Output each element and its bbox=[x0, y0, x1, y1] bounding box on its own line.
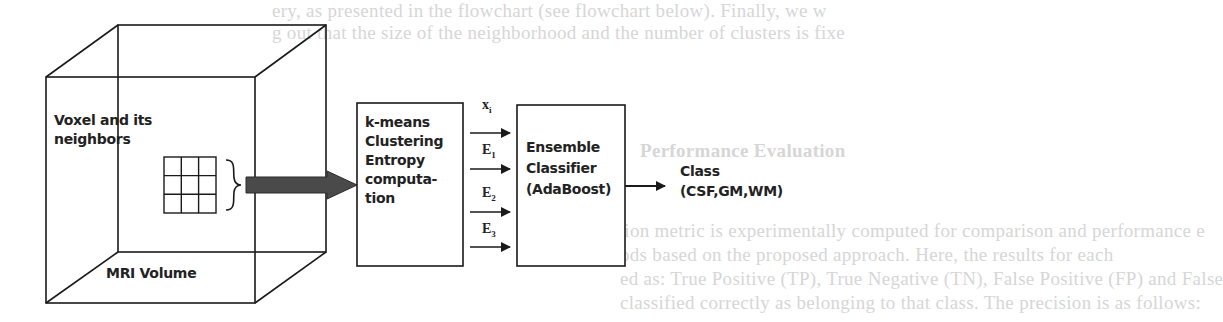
kmeans-line-1: Clustering bbox=[365, 132, 443, 151]
big-arrow-icon bbox=[246, 171, 357, 199]
brace-icon bbox=[226, 160, 241, 210]
classifier-line-2: (AdaBoost) bbox=[526, 179, 611, 200]
kmeans-line-2: Entropy bbox=[365, 151, 443, 170]
voxel-label: Voxel and its neighbors bbox=[54, 111, 154, 149]
feature-label-e3: E3 bbox=[482, 221, 496, 239]
mri-volume-label: MRI Volume bbox=[106, 264, 196, 283]
feature-label-e2: E2 bbox=[482, 185, 496, 203]
feature-label-e1: E1 bbox=[482, 142, 496, 160]
output-line-0: Class bbox=[680, 161, 783, 181]
feature-label-xi: xi bbox=[482, 97, 492, 115]
classifier-box-text: Ensemble Classifier (AdaBoost) bbox=[526, 137, 611, 200]
output-text: Class (CSF,GM,WM) bbox=[680, 161, 783, 201]
kmeans-line-0: k-means bbox=[365, 113, 443, 132]
kmeans-box-text: k-means Clustering Entropy computa- tion bbox=[365, 113, 443, 208]
kmeans-line-4: tion bbox=[365, 189, 443, 208]
voxel-grid-icon bbox=[164, 157, 216, 213]
mri-volume-cube bbox=[46, 25, 326, 303]
kmeans-line-3: computa- bbox=[365, 170, 443, 189]
classifier-line-0: Ensemble bbox=[526, 137, 611, 158]
classifier-line-1: Classifier bbox=[526, 158, 611, 179]
output-line-1: (CSF,GM,WM) bbox=[680, 181, 783, 201]
